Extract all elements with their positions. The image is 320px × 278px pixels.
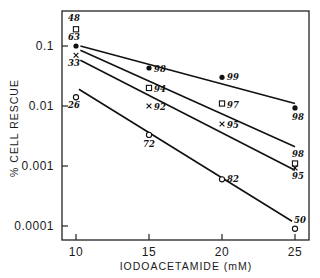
- y-tick-label: 0.01: [29, 99, 54, 113]
- filled-circle-marker-icon: [73, 43, 78, 48]
- filled-circle-marker-icon: [219, 75, 224, 80]
- x-axis-ticks: 10152025: [69, 234, 302, 259]
- point-label: 33: [68, 58, 80, 68]
- open-circle-marker-icon: [146, 132, 151, 137]
- y-tick-label: 0.001: [21, 159, 54, 173]
- cross-marker-icon: [220, 122, 225, 127]
- fit-line-open-circle: [79, 89, 292, 221]
- x-tick-label: 15: [142, 245, 156, 259]
- data-point: 95: [220, 120, 239, 130]
- data-point: 94: [146, 84, 166, 94]
- point-label: 99: [227, 72, 239, 82]
- x-tick-label: 20: [215, 245, 229, 259]
- point-label: 95: [292, 171, 304, 181]
- point-label: 98: [154, 64, 166, 74]
- point-label: 50: [294, 215, 306, 225]
- plot-frame: [62, 11, 309, 240]
- x-tick-label: 10: [69, 245, 83, 259]
- data-point: 92: [147, 102, 166, 112]
- fit-line-open-square: [80, 50, 295, 146]
- cross-marker-icon: [74, 53, 79, 58]
- data-point: 50: [292, 215, 306, 232]
- fit-line-cross: [80, 60, 295, 170]
- point-label: 94: [154, 84, 166, 94]
- point-label: 63: [68, 32, 80, 42]
- open-square-marker-icon: [73, 27, 78, 32]
- x-tick-label: 25: [288, 245, 302, 259]
- data-point: 63: [68, 32, 80, 49]
- data-point: 95: [292, 165, 304, 180]
- open-circle-marker-icon: [219, 177, 224, 182]
- y-axis-label: % CELL RESCUE: [8, 79, 20, 177]
- data-point: 98: [292, 105, 304, 122]
- chart: 10152025 0.10.010.0010.0001 639899984894…: [0, 0, 320, 278]
- open-circle-marker-icon: [292, 226, 297, 231]
- y-tick-label: 0.0001: [14, 219, 54, 233]
- data-points: 63989998489497983392959526728250: [67, 13, 306, 231]
- open-square-marker-icon: [219, 101, 224, 106]
- point-label: 82: [227, 174, 239, 184]
- data-point: 26: [67, 95, 80, 111]
- fit-line-filled-circle: [80, 46, 295, 104]
- point-label: 48: [68, 13, 80, 23]
- point-label: 97: [227, 100, 239, 110]
- data-point: 48: [68, 13, 80, 32]
- point-label: 95: [227, 120, 239, 130]
- x-axis-label: IODOACETAMIDE (mM): [120, 260, 253, 272]
- filled-circle-marker-icon: [146, 65, 151, 70]
- cross-marker-icon: [147, 104, 152, 109]
- fit-lines: [79, 46, 295, 221]
- data-point: 82: [219, 174, 239, 184]
- data-point: 98: [292, 149, 304, 167]
- point-label: 26: [67, 100, 80, 110]
- point-label: 98: [292, 112, 304, 122]
- point-label: 72: [143, 139, 155, 149]
- y-tick-label: 0.1: [36, 39, 54, 53]
- point-label: 98: [292, 149, 304, 159]
- data-point: 97: [219, 100, 239, 110]
- filled-circle-marker-icon: [292, 105, 297, 110]
- data-point: 33: [68, 53, 80, 68]
- point-label: 92: [154, 102, 166, 112]
- open-circle-marker-icon: [73, 95, 78, 100]
- open-square-marker-icon: [146, 85, 151, 90]
- y-axis-ticks: 0.10.010.0010.0001: [14, 39, 68, 233]
- data-point: 98: [146, 64, 166, 74]
- data-point: 99: [219, 72, 239, 82]
